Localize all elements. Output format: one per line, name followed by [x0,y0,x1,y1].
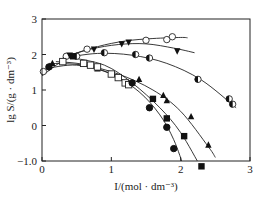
chart: 0123−1.00123 I/(mol · dm⁻³) lg S/(g · dm… [0,0,267,200]
axes: 0123−1.00123 [17,13,253,175]
fit-curve-filled-triangle-up [49,63,215,157]
data-point [164,115,170,121]
series-open-circle [40,34,175,75]
data-point [195,76,201,82]
y-axis-label: lg S/(g · dm⁻³) [4,57,17,123]
data-point [115,74,121,80]
data-point [101,50,107,56]
data-point [40,68,46,74]
data-point [229,101,235,107]
data-point [169,34,175,40]
x-axis-label: I/(mol · dm⁻³) [114,180,178,193]
plot-area [40,34,236,177]
data-point [108,71,114,77]
x-tick-label: 3 [247,163,253,175]
data-point [91,46,97,52]
data-point [84,46,90,52]
y-tick-label: 0 [32,120,38,132]
data-point [174,48,180,54]
x-tick-label: 2 [178,163,184,175]
y-tick-label: 3 [32,13,38,25]
data-point [125,39,131,45]
data-point [80,60,86,66]
data-point [70,53,76,59]
data-point [164,124,170,130]
y-tick-label: −1.0 [17,155,37,167]
data-point [150,96,156,102]
x-tick-label: 0 [39,163,45,175]
data-point [146,105,152,111]
data-point [198,163,204,169]
y-tick-label: 2 [32,49,38,61]
data-point [188,113,194,119]
data-point [181,133,187,139]
x-tick-label: 1 [109,163,115,175]
data-point [143,37,149,43]
data-point [60,58,66,64]
data-point [94,64,100,70]
data-point [132,51,138,57]
y-tick-label: 1 [32,84,38,96]
data-point [171,145,177,151]
data-point [136,76,142,82]
fit-curve-filled-square [70,57,209,177]
data-point [46,64,52,70]
data-point [87,62,93,68]
data-point [129,80,135,86]
data-point [146,55,152,61]
